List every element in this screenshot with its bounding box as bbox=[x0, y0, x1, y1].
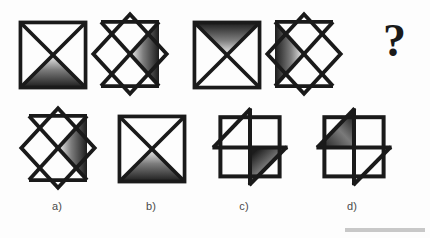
figure-square-x-top-shaded bbox=[188, 18, 266, 92]
option-a-svg bbox=[16, 102, 100, 194]
option-a-figure[interactable] bbox=[16, 102, 100, 194]
option-b-figure[interactable] bbox=[113, 112, 191, 186]
footer-rule bbox=[345, 228, 425, 232]
figure-diamond-x-right-shaded bbox=[88, 8, 172, 100]
figure-3-svg bbox=[188, 18, 266, 92]
option-b-label: b) bbox=[131, 200, 171, 212]
option-a-label: a) bbox=[37, 200, 77, 212]
figure-square-x-bottom-shaded bbox=[14, 18, 92, 92]
option-d-svg bbox=[310, 102, 398, 194]
figure-4-svg bbox=[262, 8, 346, 100]
option-b-svg bbox=[113, 112, 191, 186]
shaded-triangle-bottom bbox=[119, 149, 184, 182]
option-c-label: c) bbox=[224, 200, 264, 212]
option-d-label: d) bbox=[332, 200, 372, 212]
question-mark-icon: ? bbox=[383, 18, 406, 64]
option-c-svg bbox=[206, 102, 294, 194]
puzzle-sheet: ? bbox=[0, 0, 430, 238]
figure-2-svg bbox=[88, 8, 172, 100]
option-d-figure[interactable] bbox=[310, 102, 398, 194]
figure-1-svg bbox=[14, 18, 92, 92]
option-c-figure[interactable] bbox=[206, 102, 294, 194]
figure-diamond-x-left-shaded bbox=[262, 8, 346, 100]
shaded-triangle-top bbox=[194, 22, 259, 55]
shaded-triangle-bottom bbox=[20, 55, 85, 88]
